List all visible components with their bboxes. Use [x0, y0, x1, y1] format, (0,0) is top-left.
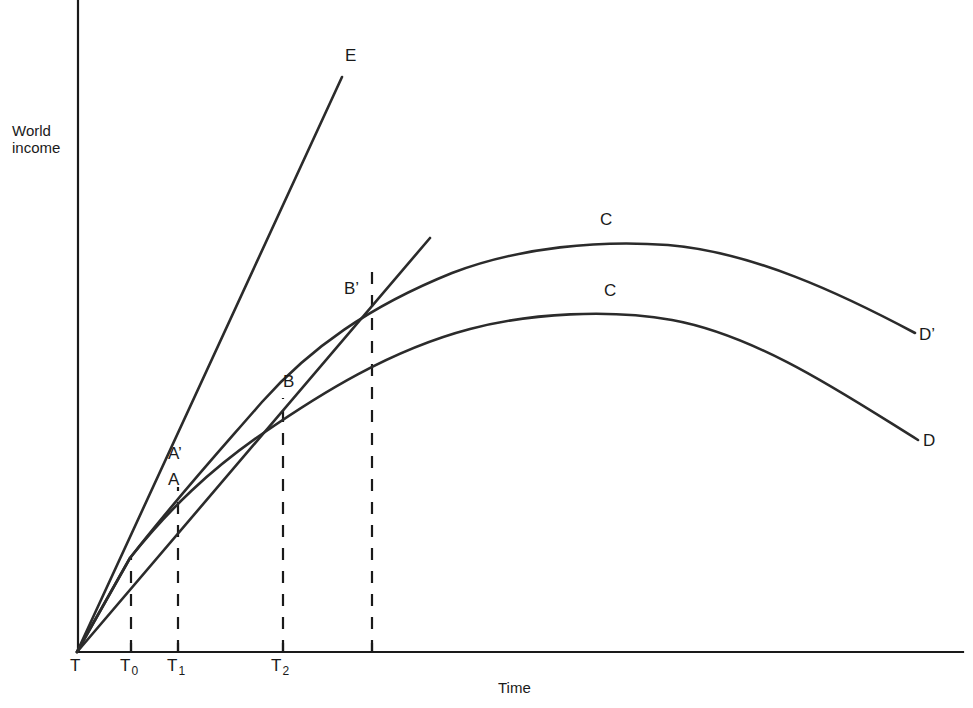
line-E [77, 77, 342, 652]
point-label-A-prime: A’ [168, 444, 182, 464]
x-tick-label-T0: T0 [120, 656, 137, 676]
x-tick-label-T0-base: T [120, 656, 130, 675]
line-T-B-Bprime [77, 238, 430, 652]
x-tick-label-T1: T1 [167, 656, 184, 676]
point-label-A: A [168, 470, 179, 490]
chart-figure: World income Time T T0 T1 T2 E C C B’ B … [0, 0, 973, 708]
y-axis-title: World income [12, 122, 60, 157]
curve-A-C-D [77, 314, 918, 652]
point-label-B: B [283, 372, 294, 392]
x-tick-label-T0-sub: 0 [131, 664, 138, 678]
x-tick-label-T: T [70, 656, 80, 676]
chart-plot-area [0, 0, 973, 708]
x-tick-label-T1-sub: 1 [178, 664, 185, 678]
x-tick-label-T2: T2 [271, 656, 288, 676]
point-label-B-prime: B’ [344, 279, 359, 299]
curve-A-prime-C-D-prime [77, 243, 915, 652]
curve-label-D-prime: D’ [919, 325, 935, 345]
x-tick-label-T2-base: T [271, 656, 281, 675]
x-tick-label-T2-sub: 2 [282, 664, 289, 678]
x-tick-label-T1-base: T [167, 656, 177, 675]
curve-label-C-lower: C [604, 281, 616, 301]
curve-label-C-upper: C [600, 210, 612, 230]
curve-label-E: E [345, 46, 356, 66]
y-axis-title-line1: World [12, 122, 60, 139]
x-axis-title: Time [498, 679, 531, 696]
y-axis-title-line2: income [12, 139, 60, 156]
curve-label-D: D [923, 431, 935, 451]
